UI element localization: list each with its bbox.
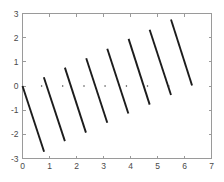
- y-tick-label-4: 1: [14, 57, 19, 67]
- x-tick-label-2: 2: [74, 161, 79, 171]
- data-segment-5: [129, 39, 150, 105]
- y-tick-label-3: 0: [14, 81, 19, 91]
- x-tick-label-3: 3: [101, 161, 106, 171]
- figure-canvas: 01234567 -3-2-10123: [0, 0, 224, 182]
- data-segment-6: [150, 30, 171, 95]
- data-segment-0: [23, 86, 45, 152]
- x-tick-label-0: 0: [20, 161, 25, 171]
- x-tick-label-6: 6: [182, 161, 187, 171]
- y-tick-label-1: -2: [11, 129, 19, 139]
- zero-dot-2: [83, 85, 85, 87]
- x-tick-label-4: 4: [128, 161, 133, 171]
- x-tick-label-7: 7: [209, 161, 214, 171]
- data-segment-2: [65, 68, 86, 133]
- data-series-sawtooth: [23, 20, 193, 152]
- y-tick-label-5: 2: [14, 33, 19, 43]
- data-segment-1: [44, 77, 65, 141]
- y-tick-label-6: 3: [14, 9, 19, 19]
- axes-group: [23, 14, 212, 159]
- zero-dot-4: [126, 85, 128, 87]
- zero-dot-5: [147, 85, 149, 87]
- x-tick-label-1: 1: [47, 161, 52, 171]
- axes-frame: [23, 14, 212, 159]
- zero-dot-0: [41, 85, 43, 87]
- y-tick-label-0: -3: [11, 154, 19, 164]
- zero-crossing-dots: [41, 85, 170, 87]
- y-tick-labels: -3-2-10123: [11, 9, 19, 164]
- x-tick-label-5: 5: [155, 161, 160, 171]
- data-segment-4: [107, 49, 128, 114]
- x-tick-labels: 01234567: [20, 161, 214, 171]
- ticks-group: [23, 14, 212, 159]
- data-segment-7: [171, 20, 192, 86]
- data-segment-3: [86, 58, 107, 123]
- zero-dot-3: [104, 85, 106, 87]
- zero-dot-6: [168, 85, 170, 87]
- zero-dot-1: [62, 85, 64, 87]
- y-tick-label-2: -1: [11, 105, 19, 115]
- plot-svg: 01234567 -3-2-10123: [0, 0, 224, 182]
